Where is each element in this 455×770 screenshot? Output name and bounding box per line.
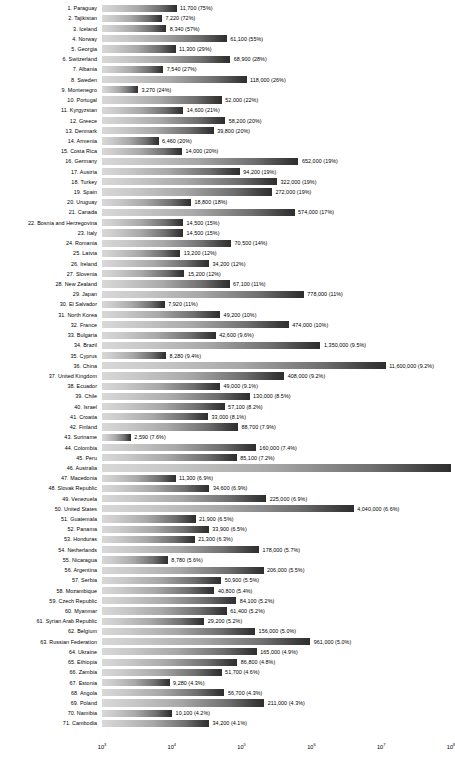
value-bar bbox=[102, 321, 289, 328]
row-category-label: 32. France bbox=[0, 322, 102, 328]
chart-row: 38. Ecuador49,000 (9.1%) bbox=[0, 381, 451, 391]
row-category-label: 58. Mozambique bbox=[0, 588, 102, 594]
row-category-label: 39. Chile bbox=[0, 393, 102, 399]
chart-row: 58. Mozambique40,800 (5.4%) bbox=[0, 585, 451, 595]
row-category-label: 67. Estonia bbox=[0, 680, 102, 686]
chart-row: 62. Belgium156,000 (5.0%) bbox=[0, 626, 451, 636]
value-bar bbox=[102, 607, 227, 614]
value-bar bbox=[102, 454, 237, 461]
x-axis-tick: 106 bbox=[307, 744, 315, 750]
bar-value-label: 50,900 (5.5%) bbox=[221, 577, 259, 583]
value-bar bbox=[102, 137, 159, 144]
bar-value-label: 14,500 (15%) bbox=[183, 220, 219, 226]
bar-value-label: 1,350,000 (9.5%) bbox=[320, 342, 366, 348]
chart-row: 54. Netherlands178,000 (5.7%) bbox=[0, 545, 451, 555]
row-category-label: 43. Suriname bbox=[0, 434, 102, 440]
bar-track: 29,200 (5.2%) bbox=[102, 616, 451, 626]
bar-track: 21,900 (6.5%) bbox=[102, 514, 451, 524]
bar-track: 3,270 (24%) bbox=[102, 85, 451, 95]
x-axis-tick: 108 bbox=[447, 744, 455, 750]
chart-row: 3. Iceland8,340 (57%) bbox=[0, 23, 451, 33]
row-category-label: 34. Brazil bbox=[0, 342, 102, 348]
bar-track: 211,000 (4.3%) bbox=[102, 698, 451, 708]
value-bar bbox=[102, 669, 222, 676]
bar-track: 52,000 (22%) bbox=[102, 95, 451, 105]
bar-value-label: 85,100 (7.2%) bbox=[237, 455, 275, 461]
value-bar bbox=[102, 393, 250, 400]
bar-value-label: 49,000 (9.1%) bbox=[220, 383, 258, 389]
bar-value-label: 34,200 (12%) bbox=[209, 261, 245, 267]
bar-value-label: 11,300 (6.9%) bbox=[176, 475, 214, 481]
chart-row: 61. Syrian Arab Republic29,200 (5.2%) bbox=[0, 616, 451, 626]
bar-value-label: 9,280 (4.3%) bbox=[170, 680, 205, 686]
bar-value-label: 8,780 (5.6%) bbox=[168, 557, 203, 563]
value-bar bbox=[102, 444, 256, 451]
bar-track: 11,600,000 (9.2%) bbox=[102, 361, 451, 371]
bar-track: 7,920 (11%) bbox=[102, 299, 451, 309]
chart-row: 29. Japan778,000 (11%) bbox=[0, 289, 451, 299]
row-category-label: 8. Sweden bbox=[0, 77, 102, 83]
row-category-label: 60. Myanmar bbox=[0, 608, 102, 614]
bar-track: 2,590 (7.6%) bbox=[102, 432, 451, 442]
row-category-label: 55. Nicaragua bbox=[0, 557, 102, 563]
bar-track: 58,200 (20%) bbox=[102, 115, 451, 125]
value-bar bbox=[102, 148, 182, 155]
bar-track: 225,000 (6.9%) bbox=[102, 494, 451, 504]
bar-track: 34,200 (4.1%) bbox=[102, 718, 451, 728]
row-category-label: 30. El Salvador bbox=[0, 301, 102, 307]
chart-row: 4. Norway61,100 (55%) bbox=[0, 34, 451, 44]
bar-track: 178,000 (5.7%) bbox=[102, 545, 451, 555]
chart-row: 25. Latvia13,200 (12%) bbox=[0, 248, 451, 258]
row-category-label: 17. Austria bbox=[0, 169, 102, 175]
chart-row: 10. Portugal52,000 (22%) bbox=[0, 95, 451, 105]
row-category-label: 64. Ukraine bbox=[0, 649, 102, 655]
bar-value-label: 61,400 (5.2%) bbox=[227, 608, 265, 614]
chart-row: 45. Peru85,100 (7.2%) bbox=[0, 453, 451, 463]
row-category-label: 7. Albania bbox=[0, 66, 102, 72]
chart-row: 51. Guatemala21,900 (6.5%) bbox=[0, 514, 451, 524]
chart-row: 24. Romania70,500 (14%) bbox=[0, 238, 451, 248]
row-category-label: 2. Tajikistan bbox=[0, 15, 102, 21]
bar-value-label: 56,700 (4.3%) bbox=[224, 690, 262, 696]
chart-row: 44. Colombia160,000 (7.4%) bbox=[0, 442, 451, 452]
value-bar bbox=[102, 301, 165, 308]
value-bar bbox=[102, 515, 196, 522]
bar-value-label: 39,800 (20%) bbox=[214, 128, 250, 134]
chart-row: 16. Germany652,000 (19%) bbox=[0, 156, 451, 166]
bar-value-label: 21,900 (6.5%) bbox=[196, 516, 234, 522]
row-category-label: 40. Israel bbox=[0, 404, 102, 410]
bar-value-label: 8,340 (57%) bbox=[166, 26, 199, 32]
chart-row: 19. Spain272,000 (19%) bbox=[0, 187, 451, 197]
row-category-label: 16. Germany bbox=[0, 158, 102, 164]
x-axis-tick: 104 bbox=[168, 744, 176, 750]
bar-track: 6,460 (20%) bbox=[102, 136, 451, 146]
bar-value-label: 3,270 (24%) bbox=[138, 87, 171, 93]
chart-row: 55. Nicaragua8,780 (5.6%) bbox=[0, 555, 451, 565]
value-bar bbox=[102, 618, 204, 625]
chart-row: 42. Finland88,700 (7.9%) bbox=[0, 422, 451, 432]
chart-row: 67. Estonia9,280 (4.3%) bbox=[0, 677, 451, 687]
row-category-label: 6. Switzerland bbox=[0, 56, 102, 62]
x-axis: 103104105106107108 bbox=[102, 744, 451, 770]
chart-row: 59. Czech Republic84,100 (5.2%) bbox=[0, 596, 451, 606]
row-category-label: 46. Australia bbox=[0, 465, 102, 471]
chart-row: 56. Argentina206,000 (5.5%) bbox=[0, 565, 451, 575]
bar-value-label: 15,200 (12%) bbox=[184, 271, 220, 277]
row-category-label: 22. Bosnia and Herzegovina bbox=[0, 220, 102, 226]
bar-value-label: 88,700 (7.9%) bbox=[238, 424, 276, 430]
bar-track: 50,900 (5.5%) bbox=[102, 575, 451, 585]
bar-value-label: 652,000 (19%) bbox=[298, 158, 338, 164]
row-category-label: 42. Finland bbox=[0, 424, 102, 430]
chart-row: 6. Switzerland68,900 (28%) bbox=[0, 54, 451, 64]
bar-value-label: 29,200 (5.2%) bbox=[204, 618, 242, 624]
bar-track: 13,200 (12%) bbox=[102, 248, 451, 258]
value-bar bbox=[102, 56, 230, 63]
value-bar bbox=[102, 260, 209, 267]
value-bar bbox=[102, 86, 138, 93]
chart-row: 20. Uruguay18,800 (18%) bbox=[0, 197, 451, 207]
row-category-label: 62. Belgium bbox=[0, 628, 102, 634]
x-axis-tick: 105 bbox=[237, 744, 245, 750]
chart-row: 14. Armenia6,460 (20%) bbox=[0, 136, 451, 146]
bar-value-label: 14,600 (21%) bbox=[183, 107, 219, 113]
row-category-label: 50. United States bbox=[0, 506, 102, 512]
